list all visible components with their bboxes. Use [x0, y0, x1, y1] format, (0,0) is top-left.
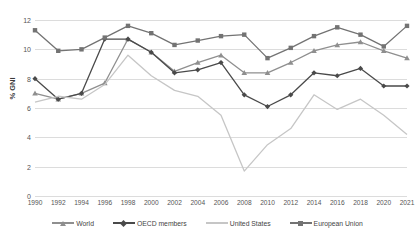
data-point-marker — [33, 28, 37, 32]
legend-item-european-union[interactable]: European Union — [290, 219, 363, 227]
x-tick-label: 2000 — [144, 199, 159, 206]
x-tick-label: 2014 — [307, 199, 322, 206]
data-point-marker — [196, 38, 200, 42]
x-tick-label: 2018 — [353, 199, 368, 206]
x-tick-label: 2006 — [214, 199, 229, 206]
x-tick-label: 2008 — [237, 199, 252, 206]
plot-area: 024681012 — [35, 20, 407, 196]
y-tick-label: 6 — [27, 105, 31, 112]
x-axis-labels: 1990199219941996199820002002200420062008… — [35, 199, 407, 213]
legend-label: OECD members — [137, 220, 187, 227]
series-lines — [35, 20, 407, 196]
x-tick-label: 1998 — [121, 199, 136, 206]
data-point-marker — [382, 44, 386, 48]
x-tick-label: 2021 — [400, 199, 415, 206]
gridline: 0 — [35, 196, 407, 197]
x-tick-label: 2002 — [167, 199, 182, 206]
data-point-marker — [149, 31, 153, 35]
x-tick-label: 1990 — [28, 199, 43, 206]
data-point-marker — [289, 46, 293, 50]
data-point-marker — [265, 56, 269, 60]
x-tick-label: 2010 — [260, 199, 275, 206]
x-tick-label: 2012 — [283, 199, 298, 206]
line-chart: % GNI 024681012 199019921994199619982000… — [0, 0, 415, 240]
legend-item-world[interactable]: World — [52, 219, 94, 227]
data-point-marker — [218, 52, 224, 57]
series-oecd-members — [32, 36, 409, 109]
chart-legend: WorldOECD membersUnited StatesEuropean U… — [0, 219, 415, 227]
data-point-marker — [126, 24, 130, 28]
y-tick-label: 8 — [27, 75, 31, 82]
data-point-marker — [195, 67, 200, 72]
data-point-marker — [172, 43, 176, 47]
data-point-marker — [312, 34, 316, 38]
x-tick-label: 1996 — [97, 199, 112, 206]
series-line — [35, 39, 407, 99]
data-point-marker — [56, 49, 60, 53]
legend-label: European Union — [314, 220, 363, 227]
y-axis-title: % GNI — [8, 59, 17, 119]
data-point-marker — [79, 47, 83, 51]
y-tick-label: 10 — [23, 46, 31, 53]
x-tick-label: 1992 — [51, 199, 66, 206]
x-tick-label: 2016 — [330, 199, 345, 206]
series-line — [35, 39, 407, 106]
data-point-marker — [404, 83, 409, 88]
data-point-marker — [242, 32, 246, 36]
y-tick-label: 12 — [23, 17, 31, 24]
y-tick-label: 2 — [27, 163, 31, 170]
data-point-marker — [335, 73, 340, 78]
legend-label: United States — [230, 220, 271, 227]
x-tick-label: 2004 — [190, 199, 205, 206]
legend-swatch-icon — [290, 219, 312, 227]
data-point-marker — [265, 104, 270, 109]
data-point-marker — [219, 34, 223, 38]
legend-swatch-icon — [206, 219, 228, 227]
legend-label: World — [76, 220, 94, 227]
data-point-marker — [103, 35, 107, 39]
data-point-marker — [335, 25, 339, 29]
x-tick-label: 2020 — [376, 199, 391, 206]
x-tick-label: 1994 — [74, 199, 89, 206]
data-point-marker — [358, 32, 362, 36]
legend-item-united-states[interactable]: United States — [206, 219, 271, 227]
data-point-marker — [32, 91, 38, 96]
legend-swatch-icon — [113, 219, 135, 227]
legend-item-oecd-members[interactable]: OECD members — [113, 219, 187, 227]
data-point-marker — [405, 24, 409, 28]
y-tick-label: 4 — [27, 134, 31, 141]
legend-swatch-icon — [52, 219, 74, 227]
